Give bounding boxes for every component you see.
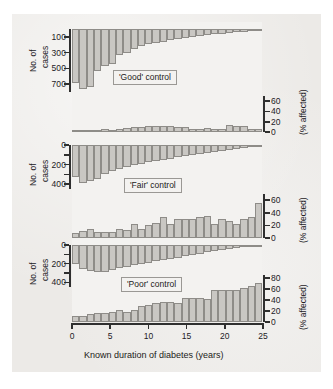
bar-fair-cases-4 [101, 145, 108, 174]
bar-poor-cases-10 [145, 245, 152, 263]
bar-fair-cases-25 [255, 145, 262, 147]
bar-poor-cases-16 [189, 245, 196, 255]
bar-fair-cases-8 [131, 145, 138, 165]
x-tick-5 [109, 323, 111, 329]
panel1-percent-axis-title: (% affected) [298, 89, 308, 135]
bar-poor-pct-18 [204, 299, 211, 322]
bar-good-cases-8 [131, 29, 138, 49]
bar-fair-cases-20 [218, 145, 225, 151]
bar-good-cases-4 [101, 29, 108, 66]
bar-poor-cases-2 [87, 245, 94, 271]
panel1-cases-tick-500 [64, 68, 69, 70]
panel1-cases-tick-100 [64, 36, 69, 38]
bar-fair-pct-12 [160, 217, 167, 238]
panel3-cases-tick-400 [64, 282, 69, 284]
panel1-cases-tick-300 [64, 52, 69, 54]
bar-good-cases-17 [196, 29, 203, 36]
bar-poor-cases-13 [167, 245, 174, 259]
bar-poor-pct-22 [233, 290, 240, 322]
x-tick-label-10: 10 [139, 331, 157, 341]
panel2-pct-tick-label-40: 40 [271, 208, 281, 218]
panel1-cases-tick-700 [64, 83, 69, 85]
panel3-pct-tick-label-40: 40 [271, 295, 281, 305]
panel1-pct-tick-40 [265, 111, 270, 113]
bar-good-pct-18 [204, 128, 211, 132]
bar-good-pct-2 [87, 130, 94, 132]
panel3-pct-tick-label-0: 0 [271, 317, 276, 327]
panel3-pct-tick-80 [265, 277, 270, 279]
bar-fair-pct-20 [218, 219, 225, 238]
panel2-cases-tick-label-200: 200 [36, 160, 66, 170]
panel3-pct-tick-40 [265, 299, 270, 301]
panel1-pct-tick-60 [265, 100, 270, 102]
bar-poor-cases-8 [131, 245, 138, 265]
bar-poor-pct-19 [211, 290, 218, 322]
panel2-cases-tick-label-400: 400 [36, 179, 66, 189]
bar-good-pct-21 [226, 125, 233, 132]
panel1-pct-tick-0 [265, 131, 270, 133]
bar-good-cases-3 [94, 29, 101, 71]
bar-fair-cases-12 [160, 145, 167, 160]
bar-fair-pct-2 [87, 229, 94, 238]
bar-fair-cases-23 [240, 145, 247, 148]
bar-poor-pct-5 [109, 312, 116, 322]
panel2-cases-tick-200 [64, 164, 69, 166]
bar-poor-cases-25 [255, 245, 262, 247]
bar-good-pct-14 [174, 127, 181, 132]
bar-good-pct-6 [116, 129, 123, 132]
x-tick-label-0: 0 [63, 331, 81, 341]
bar-good-pct-8 [131, 127, 138, 132]
bar-poor-cases-24 [248, 245, 255, 247]
bar-fair-cases-2 [87, 145, 94, 181]
panel2-cases-tick-400 [64, 183, 69, 185]
figure-root: No. of cases 'Good' control (% affected)… [0, 0, 333, 389]
bar-good-cases-5 [109, 29, 116, 64]
bar-poor-pct-14 [174, 303, 181, 322]
bar-good-pct-22 [233, 126, 240, 132]
x-tick-0 [71, 323, 73, 329]
bar-fair-pct-18 [204, 216, 211, 238]
panel1-cases-tick-label-500: 500 [36, 63, 66, 73]
bar-good-pct-23 [240, 126, 247, 132]
bar-poor-cases-14 [174, 245, 181, 258]
bar-fair-cases-11 [152, 145, 159, 161]
bar-fair-cases-10 [145, 145, 152, 162]
bar-poor-pct-17 [196, 298, 203, 322]
panel3-percent-axis-title: (% affected) [298, 284, 308, 330]
bar-good-cases-23 [240, 29, 247, 32]
panel2-pct-tick-label-60: 60 [271, 195, 281, 205]
panel2-pct-tick-40 [265, 212, 270, 214]
panel1-cases-axis-spine [69, 29, 71, 92]
bar-good-cases-9 [138, 29, 145, 46]
bar-good-pct-7 [123, 128, 130, 132]
panel2-cases-minortick-100 [64, 154, 69, 156]
bar-fair-pct-7 [123, 230, 130, 238]
bar-good-pct-1 [79, 130, 86, 132]
bar-good-cases-13 [167, 29, 174, 40]
panel2-cases-tick-label-0: 0 [36, 140, 66, 150]
bar-poor-pct-2 [87, 314, 94, 322]
bar-poor-cases-3 [94, 245, 101, 272]
bar-fair-cases-16 [189, 145, 196, 155]
bar-good-cases-15 [182, 29, 189, 38]
bar-poor-pct-10 [145, 305, 152, 322]
x-tick-label-5: 5 [101, 331, 119, 341]
bar-good-cases-14 [174, 29, 181, 39]
bar-fair-cases-9 [138, 145, 145, 164]
bar-poor-cases-12 [160, 245, 167, 260]
bar-good-pct-5 [109, 130, 116, 132]
bar-fair-pct-9 [138, 229, 145, 238]
bar-good-pct-20 [218, 129, 225, 132]
x-tick-25 [262, 323, 264, 329]
panel2-cases-minortick-300 [64, 174, 69, 176]
bar-good-cases-1 [79, 29, 86, 89]
bar-poor-cases-9 [138, 245, 145, 264]
bar-poor-cases-23 [240, 245, 247, 247]
bar-fair-cases-13 [167, 145, 174, 159]
panel3-cases-axis-spine [69, 245, 71, 287]
bar-poor-cases-5 [109, 245, 116, 270]
bar-good-pct-19 [211, 129, 218, 132]
bar-poor-cases-6 [116, 245, 123, 268]
bar-poor-cases-17 [196, 245, 203, 254]
panel2-cases-axis-spine [69, 145, 71, 189]
